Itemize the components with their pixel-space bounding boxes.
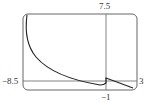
x-min-label: −8.5 (2, 77, 18, 86)
viewing-window-frame (23, 14, 137, 90)
x-max-label: 3 (139, 77, 144, 86)
y-max-label: 7.5 (99, 2, 110, 11)
function-curve (26, 15, 133, 88)
y-min-label: −1 (101, 93, 111, 102)
plot-area (0, 0, 150, 105)
